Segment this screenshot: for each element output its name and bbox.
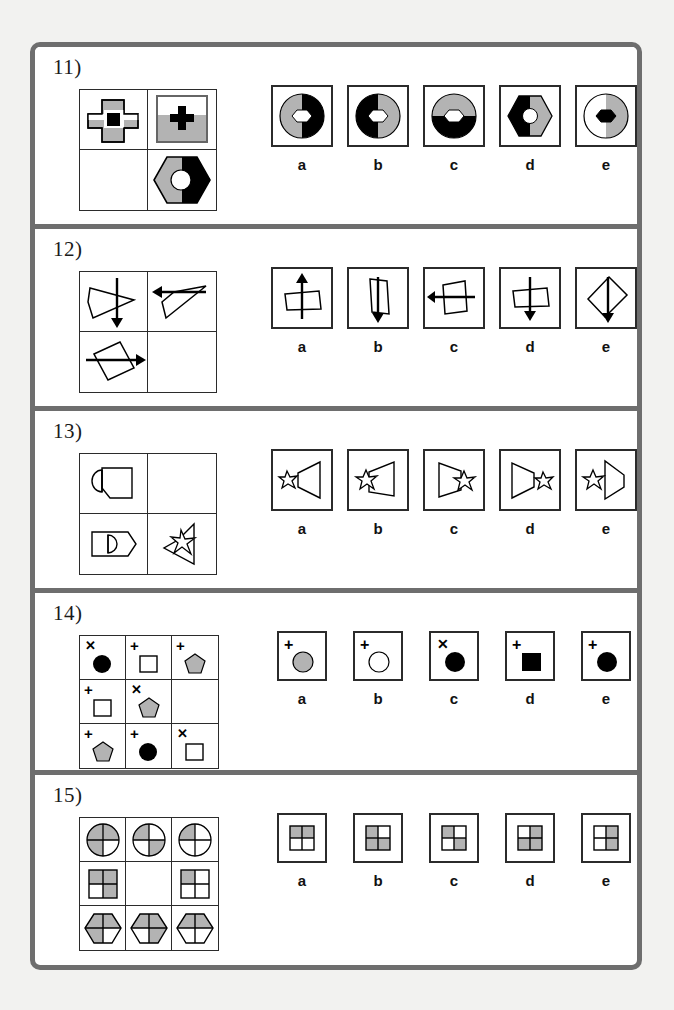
option-box[interactable] [271,267,333,329]
option-14-b[interactable]: + b [349,631,407,707]
option-box[interactable] [499,85,561,147]
option-box[interactable] [499,449,561,511]
option-15-b[interactable]: b [349,813,407,889]
option-11-b[interactable]: b [349,85,407,173]
matrix-cell-15-5-empty [126,862,172,906]
options-row-13: a b c [273,449,635,537]
option-14-d[interactable]: + d [501,631,559,707]
question-number: 13) [53,419,83,444]
option-label: a [298,520,306,537]
matrix-cell-14-2: + [126,636,172,680]
option-14-a[interactable]: + a [273,631,331,707]
option-box[interactable]: + [277,631,327,681]
matrix-cell-14-6-empty [172,680,218,724]
option-11-e[interactable]: e [577,85,635,173]
option-box[interactable] [499,267,561,329]
option-box[interactable] [429,813,479,863]
option-15-c[interactable]: c [425,813,483,889]
option-label: a [298,872,306,889]
question-panel-11: 11) [35,47,637,229]
option-box[interactable] [423,267,485,329]
option-12-c[interactable]: c [425,267,483,355]
option-label: e [602,520,610,537]
matrix-cell-12-4-empty [148,332,216,392]
option-label: d [525,338,534,355]
svg-text:+: + [130,725,139,742]
option-box[interactable] [505,813,555,863]
option-box[interactable] [347,267,409,329]
matrix-grid-12 [79,271,217,393]
option-label: e [602,872,610,889]
option-box[interactable] [271,85,333,147]
option-box[interactable] [423,449,485,511]
option-box[interactable] [277,813,327,863]
question-number: 11) [53,55,82,80]
option-box[interactable]: + [353,631,403,681]
option-box[interactable] [353,813,403,863]
option-box[interactable] [581,813,631,863]
question-panel-15: 15) [35,775,637,957]
matrix-cell-13-4 [148,514,216,574]
question-number: 15) [53,783,83,808]
matrix-cell-11-4 [148,150,216,210]
option-12-d[interactable]: d [501,267,559,355]
option-12-e[interactable]: e [577,267,635,355]
option-label: d [525,690,534,707]
option-12-b[interactable]: b [349,267,407,355]
option-label: c [450,338,458,355]
option-11-a[interactable]: a [273,85,331,173]
matrix-cell-14-4: + [80,680,126,724]
svg-text:✕: ✕ [85,638,96,653]
option-12-a[interactable]: a [273,267,331,355]
matrix-grid-15 [79,817,219,951]
matrix-cell-14-3: + [172,636,218,680]
matrix-cell-15-8 [126,906,172,950]
matrix-cell-12-3 [80,332,148,392]
option-box[interactable] [271,449,333,511]
option-label: b [373,338,382,355]
matrix-cell-13-3 [80,514,148,574]
option-15-a[interactable]: a [273,813,331,889]
test-page: 11) [30,42,642,970]
svg-text:+: + [176,637,185,654]
option-box[interactable] [575,85,637,147]
option-box[interactable]: ✕ [429,631,479,681]
option-box[interactable] [575,449,637,511]
option-14-e[interactable]: + e [577,631,635,707]
svg-text:✕: ✕ [131,682,142,697]
option-14-c[interactable]: ✕ c [425,631,483,707]
option-13-a[interactable]: a [273,449,331,537]
option-label: e [602,338,610,355]
matrix-cell-11-3-empty [80,150,148,210]
option-label: d [525,872,534,889]
option-15-e[interactable]: e [577,813,635,889]
option-13-e[interactable]: e [577,449,635,537]
svg-text:✕: ✕ [437,636,449,652]
question-number: 12) [53,237,83,262]
option-label: c [450,520,458,537]
matrix-cell-14-5: ✕ [126,680,172,724]
option-13-c[interactable]: c [425,449,483,537]
svg-text:+: + [84,681,93,698]
matrix-cell-15-6 [172,862,218,906]
svg-text:+: + [588,636,597,653]
option-box[interactable] [423,85,485,147]
option-label: c [450,690,458,707]
option-11-d[interactable]: d [501,85,559,173]
matrix-cell-15-3 [172,818,218,862]
options-row-15: a b [273,813,635,889]
option-11-c[interactable]: c [425,85,483,173]
matrix-cell-14-7: + [80,724,126,768]
option-label: a [298,338,306,355]
options-row-14: + a + b ✕ [273,631,635,707]
option-box[interactable]: + [505,631,555,681]
option-box[interactable]: + [581,631,631,681]
option-13-b[interactable]: b [349,449,407,537]
option-13-d[interactable]: d [501,449,559,537]
option-box[interactable] [347,85,409,147]
option-15-d[interactable]: d [501,813,559,889]
matrix-cell-12-2 [148,272,216,332]
option-box[interactable] [347,449,409,511]
option-box[interactable] [575,267,637,329]
matrix-cell-15-1 [80,818,126,862]
